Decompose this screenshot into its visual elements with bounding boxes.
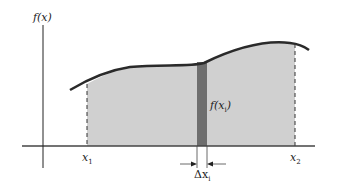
x1-label: x1	[82, 151, 93, 166]
y-axis-label: f(x)	[32, 11, 52, 24]
riemann-strip-diagram: f(x) x1 x2 f(xi) Δxi	[0, 0, 341, 191]
strip-height-label: f(xi)	[209, 99, 231, 114]
right-arrowhead	[207, 162, 213, 167]
x2-label: x2	[290, 151, 301, 166]
area-under-curve	[87, 43, 295, 146]
left-arrowhead	[191, 162, 197, 167]
strip-width-label: Δxi	[194, 168, 211, 183]
strip-rectangle	[197, 62, 207, 146]
